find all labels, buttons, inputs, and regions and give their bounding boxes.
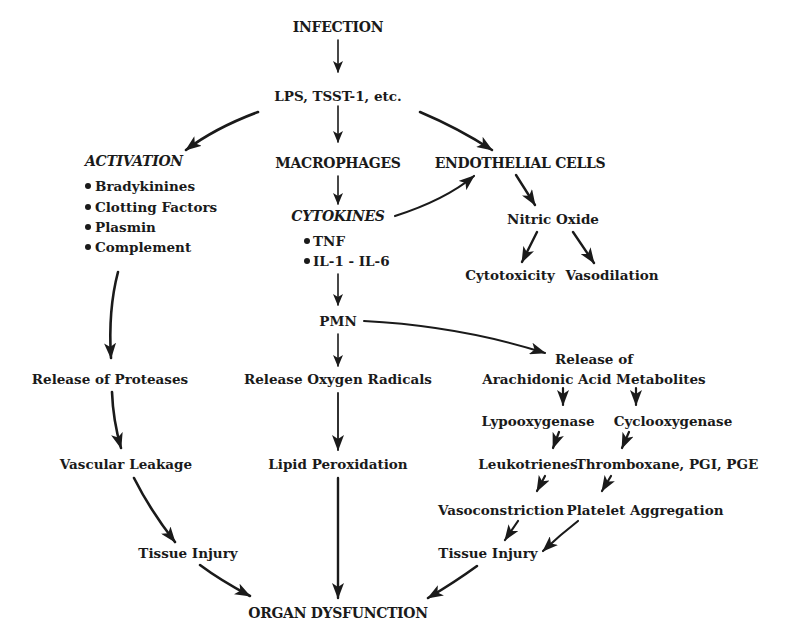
arrow-nitric-oxide-vasodilation <box>573 232 594 263</box>
arrow-tissue-injury-left-organ <box>200 565 250 596</box>
node-nitric-oxide: Nitric Oxide <box>507 211 599 227</box>
arrow-lps-activation <box>186 112 258 150</box>
arrow-lypooxygenase-leukotrienes <box>553 432 559 448</box>
node-release-proteases: Release of Proteases <box>32 371 189 387</box>
bullet-icon <box>85 244 91 250</box>
activation-item: Clotting Factors <box>95 199 218 215</box>
arrow-endothelial-nitric-oxide <box>516 175 535 205</box>
node-macrophages: MACROPHAGES <box>275 155 401 171</box>
bullet-icon <box>85 183 91 189</box>
arrow-pmn-arachidonic <box>364 321 545 353</box>
cytokine-list: TNF IL-1 - IL-6 <box>304 233 390 269</box>
cytokine-item: IL-1 - IL-6 <box>313 253 390 269</box>
bullet-icon <box>85 224 91 230</box>
activation-item: Complement <box>95 239 192 255</box>
arrow-vascular-leakage-tissue-injury <box>134 478 175 542</box>
arrow-cytokines-endothelial <box>395 176 474 216</box>
arrow-vasoconstriction-tissue-injury <box>505 521 518 540</box>
arrow-proteases-vascular-leakage <box>112 392 121 448</box>
activation-item: Plasmin <box>95 219 156 235</box>
node-release-of: Release of <box>555 351 634 367</box>
nodes: INFECTION LPS, TSST-1, etc. ACTIVATION B… <box>32 19 758 621</box>
node-organ-dysfunction: ORGAN DYSFUNCTION <box>248 605 428 621</box>
bullet-icon <box>85 204 91 210</box>
node-thromboxane-pgi-pge: Thromboxane, PGI, PGE <box>576 456 759 472</box>
arrow-nitric-oxide-cytotoxicity <box>522 232 537 262</box>
node-tissue-injury-right: Tissue Injury <box>438 545 538 561</box>
node-lypooxygenase: Lypooxygenase <box>482 413 595 429</box>
activation-item: Bradykinines <box>95 178 195 194</box>
node-cytotoxicity: Cytotoxicity <box>465 267 556 283</box>
node-lipid-peroxidation: Lipid Peroxidation <box>268 456 408 472</box>
cytokine-item: TNF <box>313 233 345 249</box>
node-activation: ACTIVATION <box>83 153 184 169</box>
node-pmn: PMN <box>319 313 356 329</box>
node-infection: INFECTION <box>293 19 384 35</box>
node-lps: LPS, TSST-1, etc. <box>274 88 402 104</box>
node-release-oxygen-radicals: Release Oxygen Radicals <box>244 371 432 387</box>
bullet-icon <box>304 238 310 244</box>
node-cyclooxygenase: Cyclooxygenase <box>614 413 733 429</box>
node-vascular-leakage: Vascular Leakage <box>59 456 192 472</box>
arrow-thromboxane-platelet <box>602 476 611 491</box>
node-platelet-aggregation: Platelet Aggregation <box>567 502 724 518</box>
arrow-activation-release-proteases <box>110 272 118 358</box>
arrow-leukotrienes-vasoconstriction <box>537 476 545 491</box>
arrow-cyclooxygenase-thromboxane <box>622 432 629 448</box>
node-cytokines: CYTOKINES <box>291 208 385 224</box>
bullet-icon <box>304 258 310 264</box>
node-tissue-injury-left: Tissue Injury <box>138 545 238 561</box>
sepsis-pathway-diagram: INFECTION LPS, TSST-1, etc. ACTIVATION B… <box>0 0 800 630</box>
arrow-lps-endothelial <box>420 112 492 150</box>
node-vasodilation: Vasodilation <box>564 267 658 283</box>
arrow-platelet-tissue-injury <box>543 521 578 551</box>
node-vasoconstriction: Vasoconstriction <box>437 502 564 518</box>
node-leukotrienes: Leukotrienes <box>478 456 578 472</box>
node-endothelial-cells: ENDOTHELIAL CELLS <box>435 155 606 171</box>
node-arachidonic-acid-metabolites: Arachidonic Acid Metabolites <box>481 371 706 387</box>
arrow-tissue-injury-right-organ <box>428 566 477 598</box>
activation-list: Bradykinines Clotting Factors Plasmin Co… <box>85 178 218 255</box>
